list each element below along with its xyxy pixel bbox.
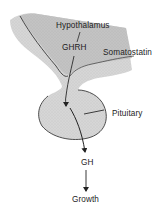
somatostatin-label: Somatostatin bbox=[103, 49, 152, 57]
gh-label: GH bbox=[81, 159, 93, 167]
diagram-canvas: Hypothalamus GHRH Somatostatin Pituitary… bbox=[0, 0, 162, 217]
growth-label: Growth bbox=[72, 196, 99, 204]
hypothalamus-label: Hypothalamus bbox=[56, 22, 110, 30]
pituitary-label: Pituitary bbox=[112, 110, 142, 118]
ghrh-label: GHRH bbox=[62, 44, 87, 52]
